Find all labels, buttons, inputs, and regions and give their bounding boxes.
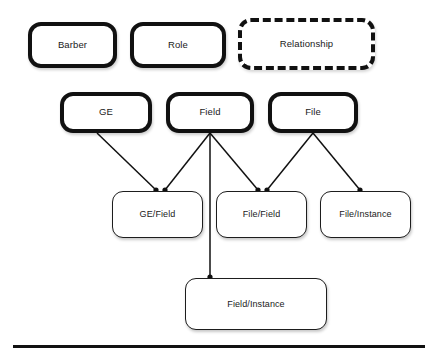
node-ge[interactable]: GE	[60, 92, 152, 133]
node-ge-field[interactable]: GE/Field	[112, 191, 203, 238]
diagram-canvas: Barber Role Relationship GE Field File G…	[0, 0, 438, 356]
bottom-divider-rule	[13, 345, 425, 348]
node-role[interactable]: Role	[130, 22, 226, 68]
node-role-label: Role	[164, 40, 192, 51]
node-file-field-label: File/Field	[239, 209, 285, 219]
edge-file-to-file-instance	[313, 133, 360, 190]
node-field-instance-label: Field/Instance	[223, 299, 288, 309]
node-relationship-label: Relationship	[276, 39, 337, 50]
node-relationship[interactable]: Relationship	[238, 18, 375, 70]
node-file-instance[interactable]: File/Instance	[320, 191, 411, 238]
edge-field-to-ge-field	[165, 133, 210, 190]
node-file-field[interactable]: File/Field	[216, 191, 307, 238]
node-file-label: File	[301, 107, 325, 118]
node-file-instance-label: File/Instance	[335, 209, 395, 219]
node-file[interactable]: File	[268, 92, 358, 133]
edge-field-to-file-field	[210, 133, 258, 190]
node-field-instance[interactable]: Field/Instance	[185, 278, 327, 330]
node-field-label: Field	[195, 107, 224, 118]
edge-file-to-file-field	[267, 133, 313, 190]
node-ge-field-label: GE/Field	[136, 209, 180, 219]
node-barber-label: Barber	[54, 40, 91, 51]
node-barber[interactable]: Barber	[28, 22, 117, 68]
node-ge-label: GE	[95, 107, 117, 118]
node-field[interactable]: Field	[166, 92, 254, 133]
edge-ge-to-ge-field	[97, 133, 156, 190]
